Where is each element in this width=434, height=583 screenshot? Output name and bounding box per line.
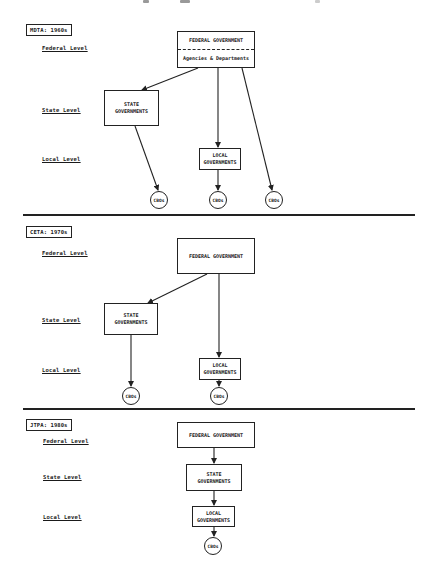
federal-government-box: FEDERAL GOVERNMENT Agencies & Department… <box>177 31 255 68</box>
federal-government-title: FEDERAL GOVERNMENT <box>178 32 254 49</box>
agencies-departments-label: Agencies & Departments <box>178 49 254 67</box>
cbo-node: CBOs <box>150 191 168 209</box>
cbo-node: CBOs <box>122 387 140 405</box>
local-box-line1: LOCAL <box>212 152 227 159</box>
local-box-line2: GOVERNMENTS <box>197 517 230 524</box>
era-tag: CETA: 1970s <box>26 226 72 238</box>
level-label-local: Local Level <box>43 514 82 520</box>
section-divider <box>23 214 415 216</box>
federal-government-box: FEDERAL GOVERNMENT <box>177 238 255 274</box>
state-box-line2: GOVERNMENTS <box>114 319 147 326</box>
state-governments-box: STATE GOVERNMENTS <box>104 90 159 126</box>
local-box-line1: LOCAL <box>212 362 227 369</box>
state-box-line1: STATE <box>123 312 138 319</box>
local-governments-box: LOCAL GOVERNMENTS <box>192 506 235 527</box>
connector-arrows <box>0 0 434 583</box>
level-label-state: State Level <box>43 474 82 480</box>
local-governments-box: LOCAL GOVERNMENTS <box>199 358 241 380</box>
federal-government-box: FEDERAL GOVERNMENT <box>177 422 255 448</box>
local-governments-box: LOCAL GOVERNMENTS <box>199 148 241 170</box>
state-governments-box: STATE GOVERNMENTS <box>186 464 242 491</box>
state-governments-box: STATE GOVERNMENTS <box>104 303 158 335</box>
local-box-line2: GOVERNMENTS <box>203 369 236 376</box>
local-box-line1: LOCAL <box>206 510 221 517</box>
era-tag: JTPA: 1980s <box>26 419 72 431</box>
level-label-federal: Federal Level <box>43 438 89 444</box>
state-box-line2: GOVERNMENTS <box>115 108 148 115</box>
section-divider <box>23 408 415 410</box>
state-box-line1: STATE <box>124 101 139 108</box>
level-label-federal: Federal Level <box>42 250 88 256</box>
cbo-node: CBOs <box>265 191 283 209</box>
federal-government-title: FEDERAL GOVERNMENT <box>189 253 243 260</box>
state-box-line2: GOVERNMENTS <box>197 478 230 485</box>
federal-government-title: FEDERAL GOVERNMENT <box>189 432 243 439</box>
level-label-federal: Federal Level <box>42 45 88 51</box>
level-label-state: State Level <box>42 107 81 113</box>
cbo-node: CBOs <box>210 387 228 405</box>
local-box-line2: GOVERNMENTS <box>203 159 236 166</box>
level-label-local: Local Level <box>42 367 81 373</box>
era-tag: MDTA: 1960s <box>26 24 72 36</box>
cbo-node: CBOs <box>204 537 222 555</box>
state-box-line1: STATE <box>206 471 221 478</box>
level-label-state: State Level <box>42 317 81 323</box>
level-label-local: Local Level <box>42 156 81 162</box>
cbo-node: CBOs <box>209 191 227 209</box>
